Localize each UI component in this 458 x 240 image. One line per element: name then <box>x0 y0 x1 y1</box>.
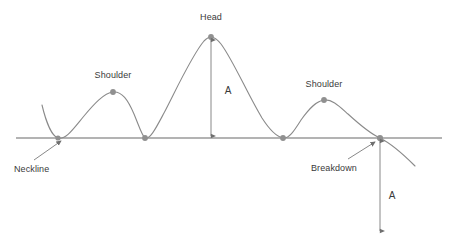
left-shoulder-label: Shoulder <box>95 70 132 80</box>
pivot-breakdown-point <box>377 135 383 141</box>
pivot-right-shoulder-peak <box>321 97 327 103</box>
price-curve <box>42 37 415 166</box>
pivot-left-trough <box>55 135 60 140</box>
pattern-height-label: A <box>225 85 232 96</box>
chart-canvas: Head Shoulder Shoulder Neckline Breakdow… <box>0 0 458 240</box>
pivot-mid-trough-right <box>280 135 286 141</box>
pivot-head-peak <box>208 34 214 40</box>
head-and-shoulders-diagram: Head Shoulder Shoulder Neckline Breakdow… <box>0 0 458 240</box>
neckline-leader-line <box>34 141 61 160</box>
head-label: Head <box>200 12 222 22</box>
neckline-label: Neckline <box>14 164 49 174</box>
price-target-label: A <box>389 190 396 201</box>
pivot-mid-trough-left <box>142 135 148 141</box>
pivot-left-shoulder-peak <box>110 89 116 95</box>
breakdown-label: Breakdown <box>311 163 357 173</box>
right-shoulder-label: Shoulder <box>306 79 343 89</box>
breakdown-leader-line <box>348 142 375 159</box>
